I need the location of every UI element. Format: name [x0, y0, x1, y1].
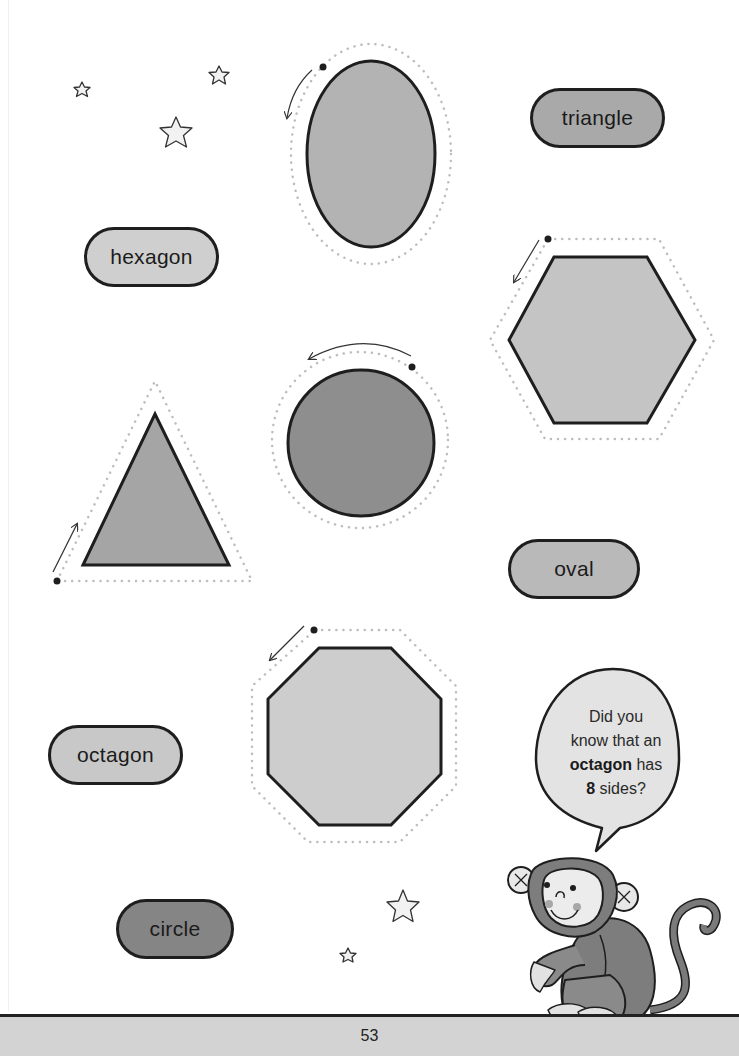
- start-dot: [545, 236, 552, 243]
- label-text: octagon: [77, 743, 154, 767]
- star-icon: [74, 66, 229, 147]
- trace-arrow-icon: [53, 524, 77, 572]
- bubble-line: Did you: [548, 705, 684, 729]
- label-text: circle: [150, 917, 201, 941]
- label-text: oval: [554, 557, 594, 581]
- triangle-shape: [53, 381, 252, 585]
- start-dot: [409, 364, 416, 371]
- label-triangle[interactable]: triangle: [530, 88, 665, 148]
- oval-shape: [287, 44, 451, 264]
- start-dot: [54, 578, 61, 585]
- hexagon-shape: [490, 236, 714, 440]
- start-dot: [311, 627, 318, 634]
- trace-arrow-icon: [514, 240, 539, 282]
- trace-arrow-icon: [309, 344, 411, 359]
- label-text: triangle: [562, 106, 633, 130]
- monkey-illustration: [508, 858, 725, 1037]
- bubble-line: octagon has: [548, 753, 684, 777]
- circle-shape: [272, 344, 448, 528]
- page-number: 53: [0, 1027, 739, 1045]
- trace-arrow-icon: [287, 70, 312, 118]
- start-dot: [320, 64, 327, 71]
- star-icon: [340, 890, 419, 962]
- bold-number: 8: [586, 780, 595, 797]
- label-octagon[interactable]: octagon: [48, 725, 183, 785]
- label-circle[interactable]: circle: [116, 899, 234, 959]
- bold-word: octagon: [570, 756, 632, 773]
- label-text: hexagon: [110, 245, 193, 269]
- octagon-shape: [252, 626, 456, 842]
- label-hexagon[interactable]: hexagon: [84, 227, 219, 287]
- bubble-line: 8 sides?: [548, 777, 684, 801]
- bubble-line: know that an: [548, 729, 684, 753]
- label-oval[interactable]: oval: [508, 539, 640, 599]
- speech-bubble-text: Did you know that an octagon has 8 sides…: [548, 705, 684, 801]
- page-footer: 53: [0, 1014, 739, 1056]
